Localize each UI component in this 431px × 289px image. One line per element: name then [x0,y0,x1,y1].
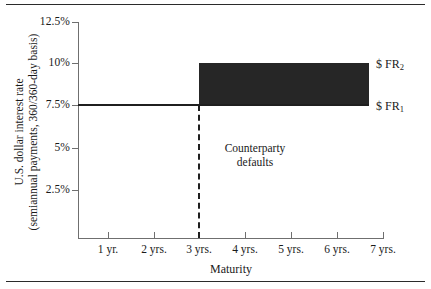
x-tick-7yrs [383,232,384,238]
y-axis-title: U.S. dollar interest rate (semiannual pa… [12,32,40,232]
shaded-exposure-region [199,63,369,105]
y-tick-label-12_5: 12.5% [8,16,70,28]
y-axis-line [78,22,79,239]
top-horizontal-rule [6,4,425,5]
x-tick-6yrs [337,232,338,238]
y-tick-10 [72,63,79,64]
annotation-counterparty-defaults: Counterparty defaults [207,141,303,169]
series-label-fr1-subscript: 1 [400,104,404,114]
counterparty-default-dashed-line [198,105,200,238]
x-tick-4yrs [245,232,246,238]
y-axis-title-line-2: (semiannual payments, 360/360-day basis) [26,32,40,232]
series-label-fr2: $ FR2 [376,58,404,71]
annotation-line-2: defaults [207,155,303,169]
y-tick-2_5 [72,190,79,191]
x-tick-2yrs [154,232,155,238]
figure-container: 12.5% 10% 7.5% 5% 2.5% 1 yr. 2 yrs. 3 yr… [0,0,431,289]
y-tick-12_5 [72,22,79,23]
series-label-fr2-text: $ FR [376,57,400,71]
series-label-fr2-subscript: 2 [400,62,404,72]
series-label-fr1: $ FR1 [376,100,404,113]
y-tick-5 [72,148,79,149]
bottom-horizontal-rule [6,281,425,282]
x-tick-5yrs [291,232,292,238]
annotation-line-1: Counterparty [225,142,286,154]
x-tick-label-7yrs: 7 yrs. [353,243,413,256]
series-label-fr1-text: $ FR [376,99,400,113]
y-axis-title-line-1: U.S. dollar interest rate [13,79,25,186]
x-axis-title: Maturity [78,262,384,276]
x-tick-1yr [108,232,109,238]
x-axis-line [78,238,384,239]
forward-rate-1-line [78,104,369,106]
